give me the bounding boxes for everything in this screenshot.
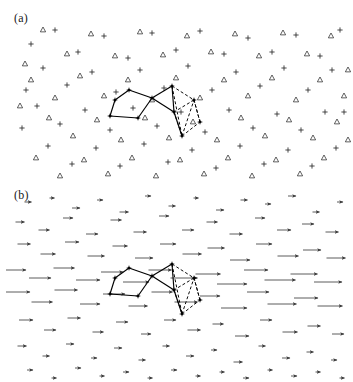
triangle-marker-icon [46,115,51,120]
triangle-marker-icon [286,117,291,122]
panel-b: (b) [0,186,353,382]
triangle-marker-icon [317,77,322,82]
plus-marker-icon [137,67,142,72]
cluster-vertex-dot [109,115,111,117]
plus-marker-icon [69,161,74,166]
triangle-marker-icon [88,31,93,36]
triangle-marker-icon [262,133,267,138]
cluster-solid-bonds [110,264,182,314]
plus-marker-icon [107,127,112,132]
plus-marker-icon [305,87,310,92]
plus-marker-icon [261,161,266,166]
plus-marker-icon [82,107,87,112]
triangle-marker-icon [28,77,33,82]
plus-marker-icon [309,163,314,168]
triangle-marker-icon [197,95,202,100]
triangle-marker-icon [33,155,38,160]
triangle-marker-icon [166,135,171,140]
plus-marker-icon [298,127,303,132]
marker-series-triangle [17,27,350,178]
plus-marker-icon [189,147,194,152]
cluster-dashed-bonds [172,86,200,136]
plus-marker-icon [141,141,146,146]
plus-marker-icon [19,125,24,130]
bond-solid [129,90,152,98]
plus-marker-icon [52,27,57,32]
triangle-marker-icon [137,29,142,34]
cluster-vertex-dot [128,89,130,91]
plus-marker-icon [237,143,242,148]
triangle-marker-icon [190,119,195,124]
triangle-marker-icon [64,51,69,56]
triangle-marker-icon [345,67,350,72]
triangle-marker-icon [293,97,298,102]
triangle-marker-icon [245,93,250,98]
plus-marker-icon [285,147,290,152]
triangle-marker-icon [256,53,261,58]
triangle-marker-icon [125,77,130,82]
plus-marker-icon [64,82,69,87]
triangle-marker-icon [269,75,274,80]
bond-solid [152,98,174,112]
bond-solid [174,112,182,136]
triangle-marker-icon [81,157,86,162]
triangle-marker-icon [345,137,350,142]
bond-solid [110,100,115,116]
plus-marker-icon [154,123,159,128]
cluster-vertex-dot [151,275,153,277]
triangle-marker-icon [105,171,110,176]
plus-marker-icon [274,111,279,116]
triangle-marker-icon [129,155,134,160]
bond-dashed [194,100,200,122]
cluster-vertex-dot [199,299,201,301]
triangle-marker-icon [40,27,45,32]
plus-marker-icon [281,65,286,70]
cluster-vertex-dot [181,313,183,315]
plus-marker-icon [101,33,106,38]
triangle-marker-icon [221,77,226,82]
cluster-vertex-dot [173,289,175,291]
plus-marker-icon [165,159,170,164]
triangle-marker-icon [22,61,27,66]
marker-series-plus [19,27,346,170]
triangle-marker-icon [77,73,82,78]
triangle-marker-icon [118,137,123,142]
triangle-marker-icon [225,155,230,160]
cluster-vertex-dot [193,277,195,279]
plus-marker-icon [23,87,28,92]
cluster-vertex-dot [114,277,116,279]
cluster-vertex-dot [171,263,173,265]
plus-marker-icon [197,28,202,33]
plus-marker-icon [337,27,342,32]
triangle-marker-icon [160,52,165,57]
triangle-marker-icon [249,173,254,178]
triangle-marker-icon [142,115,147,120]
cluster-vertex-dot [199,121,201,123]
triangle-marker-icon [273,157,278,162]
plus-marker-icon [149,30,154,35]
bond-dashed [182,100,194,136]
triangle-marker-icon [334,119,339,124]
bond-dashed [194,278,200,300]
plus-marker-icon [28,41,33,46]
plus-marker-icon [89,69,94,74]
cluster-dashed-bonds [172,264,200,314]
plus-marker-icon [57,121,62,126]
cluster-vertex-dot [128,267,130,269]
triangle-marker-icon [321,155,326,160]
bond-solid [172,86,174,112]
cluster-vertex-dot [173,111,175,113]
bond-solid [138,276,152,296]
plus-marker-icon [329,67,334,72]
bond-dashed [172,86,194,100]
cluster-vertex-dot [114,99,116,101]
plus-marker-icon [93,145,98,150]
cluster-vertices [108,84,203,139]
figure-root: (a) (b) [0,0,353,382]
cluster-vertex-dot [109,293,111,295]
panel-a: (a) [0,0,353,188]
plus-marker-icon [178,109,183,114]
cluster-vertex-dot [181,135,183,137]
bond-solid [129,268,152,276]
triangle-marker-icon [70,133,75,138]
